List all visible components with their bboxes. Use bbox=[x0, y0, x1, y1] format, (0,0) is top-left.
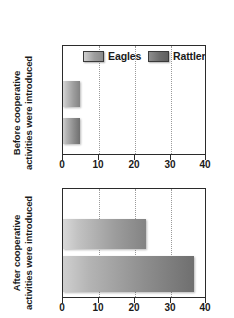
panel-after-cooperative-activities: After cooperative activities were introd… bbox=[0, 188, 234, 318]
x-ticklabel-30-before: 30 bbox=[164, 159, 175, 170]
bar-after-rattlers bbox=[63, 256, 194, 292]
x-ticklabel-40-after: 40 bbox=[199, 302, 210, 313]
legend-label-eagles: Eagles bbox=[108, 50, 141, 62]
y-axis-label-before: Before cooperative activities were intro… bbox=[0, 45, 44, 180]
plot-area-before: Eagles Rattlers bbox=[62, 45, 206, 155]
legend-before: Eagles Rattlers bbox=[63, 46, 205, 68]
legend-item-eagles: Eagles bbox=[83, 50, 141, 62]
x-ticklabel-20-after: 20 bbox=[128, 302, 139, 313]
plot-area-after bbox=[62, 188, 206, 298]
legend-item-rattlers: Rattlers bbox=[148, 50, 206, 62]
bar-before-eagles bbox=[63, 81, 80, 107]
y-axis-label-after-line1: After cooperative bbox=[11, 196, 23, 310]
legend-swatch-eagles-icon bbox=[83, 51, 104, 62]
x-ticklabel-10-before: 10 bbox=[92, 159, 103, 170]
x-ticklabel-30-after: 30 bbox=[164, 302, 175, 313]
y-axis-label-before-line1: Before cooperative bbox=[11, 55, 23, 169]
legend-swatch-rattlers-icon bbox=[148, 51, 169, 62]
y-axis-label-after: After cooperative activities were introd… bbox=[0, 188, 44, 318]
bar-after-eagles bbox=[63, 219, 146, 249]
x-ticklabel-0-before: 0 bbox=[59, 159, 65, 170]
legend-label-rattlers: Rattlers bbox=[173, 50, 206, 62]
plot-frame-after bbox=[62, 188, 206, 298]
bar-before-rattlers bbox=[63, 118, 80, 144]
x-ticklabel-20-before: 20 bbox=[128, 159, 139, 170]
x-ticklabel-10-after: 10 bbox=[92, 302, 103, 313]
panel-before-cooperative-activities: Before cooperative activities were intro… bbox=[0, 45, 234, 180]
two-panel-bar-chart-figure: Before cooperative activities were intro… bbox=[0, 0, 234, 318]
y-axis-label-before-line2: activities were introduced bbox=[22, 55, 34, 169]
y-axis-label-after-line2: activities were introduced bbox=[22, 196, 34, 310]
plot-frame-before: Eagles Rattlers bbox=[62, 45, 206, 155]
x-ticklabel-40-before: 40 bbox=[199, 159, 210, 170]
x-ticklabel-0-after: 0 bbox=[59, 302, 65, 313]
